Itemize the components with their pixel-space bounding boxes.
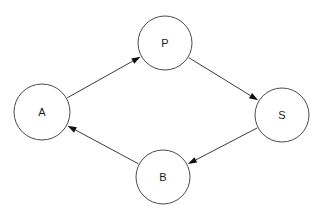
node-s-label: S (278, 109, 285, 121)
node-s[interactable]: S (255, 88, 309, 142)
edge-s-to-b (196, 128, 257, 160)
edge-p-to-s (189, 58, 251, 96)
diagram-canvas: APSB (0, 0, 322, 223)
directed-graph: APSB (0, 0, 322, 223)
edges-layer (67, 57, 258, 164)
edge-a-to-p (67, 61, 132, 98)
arrowhead-b-to-a-icon (68, 126, 77, 133)
node-a[interactable]: A (14, 84, 70, 140)
edge-b-to-a (75, 130, 138, 164)
arrowhead-a-to-p-icon (131, 57, 140, 64)
node-p[interactable]: P (138, 16, 192, 70)
nodes-layer: APSB (14, 16, 309, 204)
node-b[interactable]: B (136, 150, 190, 204)
arrowhead-s-to-b-icon (188, 157, 197, 164)
node-b-label: B (159, 171, 166, 183)
arrowhead-p-to-s-icon (249, 93, 258, 100)
node-p-label: P (161, 37, 168, 49)
node-a-label: A (38, 106, 46, 118)
